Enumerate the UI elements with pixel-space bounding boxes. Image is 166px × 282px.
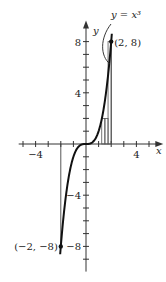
x-axis-label: x [156, 145, 162, 156]
point-label: (−2, −8) [14, 241, 58, 252]
x-tick-label: −4 [28, 149, 43, 160]
cubic-function-chart: −4484−4−8 (2, 8)(−2, −8) y = x³ x y [0, 0, 166, 282]
approx-rectangle [102, 118, 105, 144]
y-axis-arrow [83, 20, 89, 28]
data-point [109, 39, 113, 43]
x-tick-label: 4 [133, 149, 139, 160]
axes [19, 20, 164, 271]
y-tick-label: −4 [66, 190, 81, 201]
curve-label: y = x³ [110, 9, 141, 20]
point-label: (2, 8) [114, 37, 141, 48]
y-tick-label: 8 [75, 37, 81, 48]
y-axis-label: y [92, 25, 99, 36]
approx-rectangle [105, 118, 108, 144]
y-tick-label: 4 [75, 88, 81, 99]
data-point [59, 244, 63, 248]
y-tick-label: −8 [66, 241, 81, 252]
